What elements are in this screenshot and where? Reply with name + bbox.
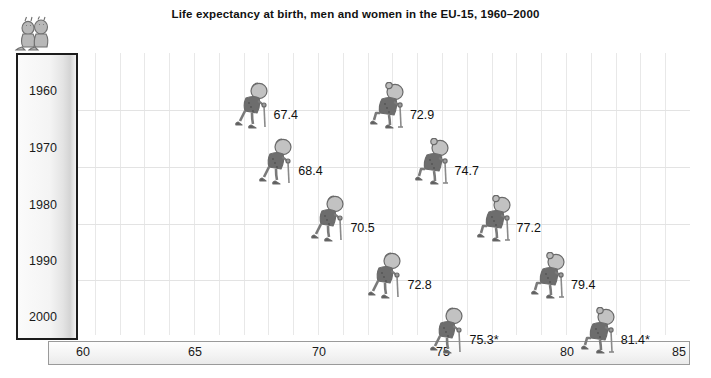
y-axis-tick-1990: 1990 — [18, 254, 68, 268]
data-label: 68.4 — [298, 164, 322, 178]
data-label: 79.4 — [571, 278, 595, 292]
x-gridline — [492, 53, 493, 335]
data-label: 67.4 — [274, 108, 298, 122]
x-axis-tick-70: 70 — [312, 345, 326, 359]
x-gridline — [417, 53, 418, 335]
x-gridline — [442, 53, 443, 335]
x-gridline — [194, 53, 195, 335]
data-label: 72.8 — [407, 278, 431, 292]
y-axis-tick-1980: 1980 — [18, 198, 68, 212]
y-axis-tick-2000: 2000 — [18, 310, 68, 324]
x-axis-tick-65: 65 — [188, 345, 202, 359]
x-axis-tick-85: 85 — [672, 345, 686, 359]
data-label: 72.9 — [410, 108, 434, 122]
x-gridline — [516, 53, 517, 335]
x-gridline — [293, 53, 294, 335]
y-gridline — [70, 224, 690, 225]
data-label: 77.2 — [517, 221, 541, 235]
y-axis-tick-1960: 1960 — [18, 84, 68, 98]
x-gridline — [169, 53, 170, 335]
y-gridline — [70, 167, 690, 168]
elderly-woman-with-cane-icon — [581, 307, 621, 359]
elderly-man-with-cane-icon — [258, 138, 298, 190]
elderly-woman-with-cane-icon — [531, 252, 571, 304]
data-label: 70.5 — [350, 221, 374, 235]
x-gridline — [591, 53, 592, 335]
data-label: 75.3* — [469, 333, 498, 347]
elderly-man-with-cane-icon — [310, 195, 350, 247]
x-gridline — [144, 53, 145, 335]
y-axis: 19601970198019902000 — [16, 53, 78, 340]
two-seated-figures-logo — [12, 16, 58, 54]
x-gridline — [219, 53, 220, 335]
elderly-woman-with-cane-icon — [477, 195, 517, 247]
y-axis-tick-1970: 1970 — [18, 141, 68, 155]
page-title: Life expectancy at birth, men and women … — [0, 8, 711, 20]
x-axis-tick-60: 60 — [76, 345, 90, 359]
x-gridline — [665, 53, 666, 335]
elderly-man-with-cane-icon — [234, 82, 274, 134]
x-axis-tick-80: 80 — [560, 345, 574, 359]
x-gridline — [640, 53, 641, 335]
data-label: 81.4* — [621, 333, 650, 347]
elderly-woman-with-cane-icon — [370, 82, 410, 134]
x-gridline — [343, 53, 344, 335]
x-gridline — [616, 53, 617, 335]
data-label: 74.7 — [455, 164, 479, 178]
x-gridline — [120, 53, 121, 335]
x-gridline — [95, 53, 96, 335]
elderly-man-with-cane-icon — [429, 307, 469, 359]
elderly-man-with-cane-icon — [367, 252, 407, 304]
x-gridline — [318, 53, 319, 335]
x-gridline — [467, 53, 468, 335]
elderly-woman-with-cane-icon — [415, 138, 455, 190]
